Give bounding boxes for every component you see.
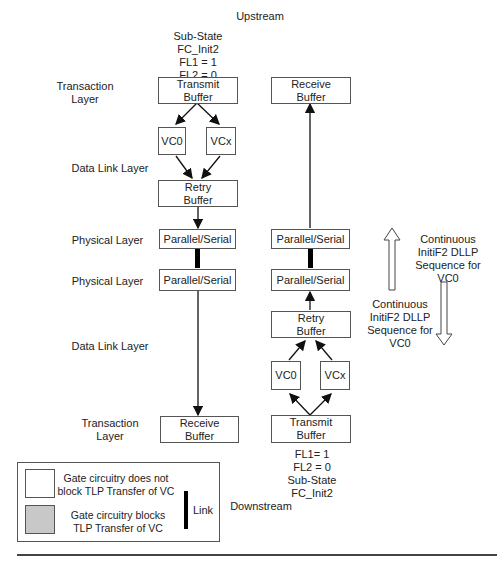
layer-physical-bottom: Physical Layer (65, 275, 150, 288)
legend: Gate circuitry does not block TLP Transf… (17, 462, 220, 542)
upstream-label: Upstream (220, 10, 300, 23)
layer-line: Layer (70, 430, 150, 443)
legend-swatch-block (25, 505, 55, 534)
box-line: Buffer (291, 91, 331, 104)
upstream-transmit-buffer: TransmitBuffer (158, 77, 238, 104)
box-line: Receive (291, 78, 331, 91)
state-line: FC_Init2 (274, 487, 350, 500)
state-line: FL1= 1 (274, 448, 350, 461)
box-line: Buffer (180, 430, 220, 443)
dllp-line: Continuous (356, 298, 444, 311)
box-line: Transmit (177, 78, 219, 91)
dllp-line: InitiF2 DLLP (356, 311, 444, 324)
legend-link-bar (184, 491, 188, 529)
box-line: Transmit (290, 416, 332, 429)
downstream-transmit-buffer: TransmitBuffer (271, 415, 351, 443)
box-line: Buffer (290, 429, 332, 442)
legend-block-text: Gate circuitry blocks TLP Transfer of VC (63, 509, 173, 535)
dllp-line: Sequence for (356, 324, 444, 337)
dllp-downstream-text: Continuous InitiF2 DLLP Sequence for VC0 (356, 298, 444, 350)
layer-line: Transaction (70, 417, 150, 430)
layer-data-link-top: Data Link Layer (60, 162, 160, 175)
downstream-parallel-serial-left: Parallel/Serial (159, 269, 236, 291)
layer-transaction-top: Transaction Layer (45, 80, 125, 106)
state-line: Sub-State (160, 30, 236, 43)
dllp-line: VC0 (356, 337, 444, 350)
state-line: Sub-State (274, 474, 350, 487)
downstream-retry-buffer: RetryBuffer (271, 311, 351, 338)
upstream-parallel-serial-right: Parallel/Serial (271, 229, 350, 249)
downstream-parallel-serial-right: Parallel/Serial (271, 269, 350, 291)
downstream-vc0: VC0 (271, 361, 301, 390)
box-line: Buffer (183, 194, 212, 207)
link-bar-left (195, 248, 200, 268)
dllp-line: Continuous (404, 233, 492, 246)
upstream-vcx: VCx (206, 127, 236, 155)
dllp-upstream-text: Continuous InitiF2 DLLP Sequence for VC0 (404, 233, 492, 285)
legend-line: block TLP Transfer of VC (56, 485, 176, 498)
hollow-arrow-up (384, 228, 400, 290)
legend-line: Gate circuitry blocks (63, 509, 173, 522)
upstream-receive-buffer-bottom: ReceiveBuffer (160, 416, 239, 443)
downstream-label: Downstream (226, 500, 296, 513)
upstream-receive-buffer: ReceiveBuffer (271, 77, 351, 104)
link-bar-right (308, 248, 313, 268)
upstream-substate: Sub-State FC_Init2 FL1 = 1 FL2 = 0 (160, 30, 236, 82)
legend-swatch-not-block (25, 469, 55, 498)
upstream-parallel-serial: Parallel/Serial (159, 229, 236, 249)
legend-not-block-text: Gate circuitry does not block TLP Transf… (56, 472, 176, 498)
layer-transaction-bottom: Transaction Layer (70, 417, 150, 443)
dllp-line: VC0 (404, 272, 492, 285)
layer-line: Transaction (45, 80, 125, 93)
downstream-vcx: VCx (320, 361, 350, 390)
box-line: Buffer (177, 91, 219, 104)
upstream-vc0: VC0 (158, 127, 186, 155)
box-line: Retry (296, 312, 325, 325)
legend-link-text: Link (190, 504, 216, 517)
upstream-retry-buffer: RetryBuffer (158, 180, 238, 207)
dllp-line: InitiF2 DLLP (404, 246, 492, 259)
state-line: FL2 = 0 (274, 461, 350, 474)
layer-line: Layer (45, 93, 125, 106)
layer-data-link-bottom: Data Link Layer (60, 340, 160, 353)
layer-physical-top: Physical Layer (65, 234, 150, 247)
box-line: Retry (183, 181, 212, 194)
state-line: FC_Init2 (160, 43, 236, 56)
legend-line: TLP Transfer of VC (63, 522, 173, 535)
box-line: Receive (180, 417, 220, 430)
dllp-line: Sequence for (404, 259, 492, 272)
legend-line: Gate circuitry does not (56, 472, 176, 485)
downstream-substate: FL1= 1 FL2 = 0 Sub-State FC_Init2 (274, 448, 350, 500)
state-line: FL1 = 1 (160, 56, 236, 69)
box-line: Buffer (296, 325, 325, 338)
